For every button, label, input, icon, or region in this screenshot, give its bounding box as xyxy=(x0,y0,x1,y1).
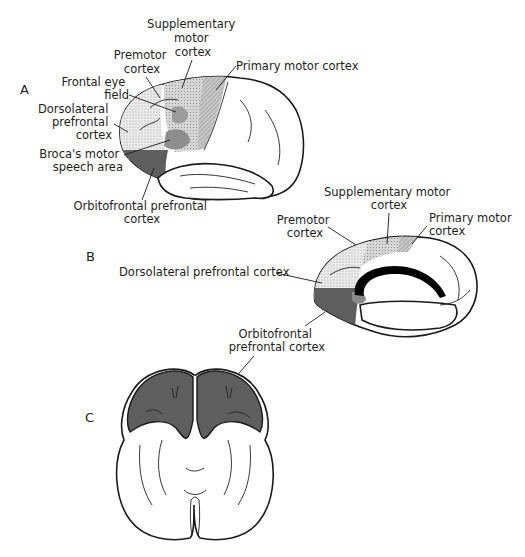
ventral-brain xyxy=(117,369,274,540)
label-orbitofrontal-a: Orbitofrontal prefrontal cortex xyxy=(73,199,210,226)
label-dorsolateral-a: Dorsolateral prefrontal cortex xyxy=(38,102,112,142)
label-primary-motor-b: Primary motor cortex xyxy=(429,211,515,238)
label-broca-a: Broca's motor speech area xyxy=(39,147,123,174)
label-dorsolateral-b: Dorsolateral prefrontal cortex xyxy=(119,265,290,279)
panel-letter-b: B xyxy=(86,249,95,264)
label-supplementary-b: Supplementary motor cortex xyxy=(324,185,454,212)
medial-brain xyxy=(300,230,477,337)
brainstem-medial xyxy=(360,301,457,330)
lateral-brain xyxy=(110,70,303,200)
panel-a: A Supplementary motor cortex xyxy=(20,17,359,226)
panel-c: C xyxy=(85,369,273,540)
panel-letter-c: C xyxy=(85,410,94,425)
label-primary-motor-a: Primary motor cortex xyxy=(236,59,359,73)
label-premotor-b: Premotor cortex xyxy=(277,213,333,240)
brain-diagram: A Supplementary motor cortex xyxy=(0,0,525,557)
leader-premotor-b xyxy=(328,227,356,245)
panel-letter-a: A xyxy=(20,82,29,97)
label-orbitofrontal-b: Orbitofrontal prefrontal cortex xyxy=(229,327,326,354)
label-premotor-a: Premotor cortex xyxy=(114,48,170,76)
label-frontal-eye-field-a: Frontal eye field xyxy=(61,75,129,102)
leader-orbitofrontal-b xyxy=(305,312,325,326)
